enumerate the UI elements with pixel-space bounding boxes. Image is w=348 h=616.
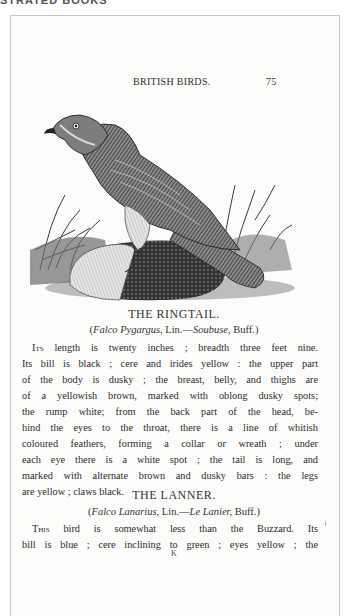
french-name: Soubuse, (193, 324, 231, 335)
signature-mark: K (0, 549, 348, 558)
authority: Buff.) (232, 506, 260, 517)
text-line: of a yellowish brown, marked with oblong… (22, 388, 318, 404)
cropped-header-text: STRATED BOOKS (0, 0, 108, 6)
section-synonyms-lanner: (Falco Lanarius, Lin.—Le Lanier, Buff.) (0, 506, 348, 517)
latin-name: Falco Lanarius, (92, 506, 160, 517)
dropcap: Its (32, 342, 44, 353)
section-synonyms-ringtail: (Falco Pygargus, Lin.—Soubuse, Buff.) (0, 324, 348, 335)
authority: Buff.) (231, 324, 259, 335)
text-line: coloured feathers, forming a collar or w… (22, 436, 318, 452)
line-text: length is twenty inches ; breadth three … (54, 342, 318, 353)
authority: Lin.— (163, 324, 193, 335)
text-line: the rump white; from the back part of th… (22, 404, 318, 420)
bird-engraving-icon (30, 100, 300, 305)
running-head-title: BRITISH BIRDS. (133, 76, 211, 87)
paragraph-ringtail: Its length is twenty inches ; breadth th… (22, 340, 318, 500)
line-text: bird is somewhat less than the Buzzard. … (63, 523, 318, 534)
page-number: 75 (266, 76, 277, 87)
section-title-ringtail: THE RINGTAIL. (0, 307, 348, 322)
french-name: Le Lanier, (190, 506, 233, 517)
dropcap: This (32, 523, 50, 534)
text-line: hind the eyes to the throat, there is a … (22, 420, 318, 436)
text-line: Its bill is black ; cere and irides yell… (22, 356, 318, 372)
text-line: each eye there is a white spot ; the tai… (22, 452, 318, 468)
authority: Lin.— (159, 506, 189, 517)
margin-mark (325, 521, 326, 526)
text-line: marked with alternate brown and dusky ba… (22, 468, 318, 484)
text-line: Its length is twenty inches ; breadth th… (22, 340, 318, 356)
text-line: This bird is somewhat less than the Buzz… (22, 521, 318, 537)
text-line: of the body is dusky ; the breast, belly… (22, 372, 318, 388)
latin-name: Falco Pygargus, (93, 324, 163, 335)
section-title-lanner: THE LANNER. (0, 488, 348, 503)
